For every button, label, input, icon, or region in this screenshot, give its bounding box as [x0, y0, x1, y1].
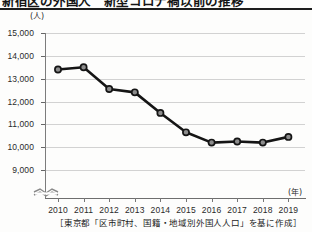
x-axis-tick: [237, 198, 238, 202]
data-point-marker: [260, 140, 266, 146]
x-axis-tick-label: 2019: [271, 205, 305, 215]
data-point-marker: [209, 140, 215, 146]
x-axis-tick: [58, 198, 59, 202]
x-axis-tick: [109, 198, 110, 202]
x-axis-tick: [263, 198, 264, 202]
x-axis-tick: [288, 198, 289, 202]
data-point-marker: [157, 110, 163, 116]
x-axis-tick: [186, 198, 187, 202]
line-chart: (人) 15,00014,00013,00012,00011,00010,000…: [0, 10, 312, 206]
data-series: [0, 10, 312, 206]
data-point-marker: [81, 64, 87, 70]
data-point-marker: [132, 89, 138, 95]
x-axis-tick: [135, 198, 136, 202]
x-axis-tick: [212, 198, 213, 202]
x-axis-tick: [84, 198, 85, 202]
data-point-marker: [234, 138, 240, 144]
data-point-marker: [285, 134, 291, 140]
source-caption: ［東京都「区市町村、国籍・地域別外国人人口」を基に作成］: [55, 216, 301, 228]
data-point-marker: [55, 66, 61, 72]
x-axis-tick: [160, 198, 161, 202]
series-line: [58, 67, 288, 142]
data-point-marker: [106, 86, 112, 92]
data-point-marker: [183, 129, 189, 135]
